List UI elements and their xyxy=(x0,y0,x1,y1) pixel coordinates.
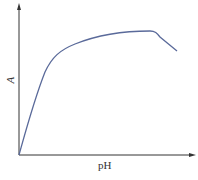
chart-plot xyxy=(0,0,198,180)
y-axis-label: A xyxy=(4,74,16,86)
data-curve xyxy=(19,31,177,155)
x-axis-arrow-icon xyxy=(189,153,196,157)
x-axis-label: pH xyxy=(98,159,111,171)
y-axis-arrow-icon xyxy=(17,3,21,10)
